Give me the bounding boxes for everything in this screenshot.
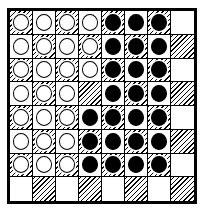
board-square-r4c5[interactable] <box>102 82 125 106</box>
board-square-r6c4[interactable] <box>79 130 102 154</box>
board-square-r6c7[interactable] <box>148 130 171 154</box>
board-square-r1c3[interactable] <box>56 11 79 35</box>
board-square-r3c6[interactable] <box>125 59 148 83</box>
board-square-r5c6[interactable] <box>125 106 148 130</box>
board-square-r6c3[interactable] <box>56 130 79 154</box>
white-piece[interactable] <box>59 156 75 173</box>
black-piece[interactable] <box>151 85 167 102</box>
board-square-r5c8[interactable] <box>171 106 194 130</box>
board-square-r6c6[interactable] <box>125 130 148 154</box>
board-square-r2c7[interactable] <box>148 35 171 59</box>
white-piece[interactable] <box>59 61 75 78</box>
black-piece[interactable] <box>128 14 144 31</box>
board-square-r5c1[interactable] <box>10 106 33 130</box>
black-piece[interactable] <box>82 156 98 173</box>
black-piece[interactable] <box>128 156 144 173</box>
board-square-r2c3[interactable] <box>56 35 79 59</box>
board-square-r2c5[interactable] <box>102 35 125 59</box>
black-piece[interactable] <box>151 133 167 150</box>
white-piece[interactable] <box>13 61 29 78</box>
white-piece[interactable] <box>82 14 98 31</box>
board-square-r8c8[interactable] <box>171 177 194 201</box>
white-piece[interactable] <box>59 133 75 150</box>
black-piece[interactable] <box>128 61 144 78</box>
board-square-r8c7[interactable] <box>148 177 171 201</box>
black-piece[interactable] <box>105 109 121 126</box>
white-piece[interactable] <box>13 85 29 102</box>
board-square-r8c5[interactable] <box>102 177 125 201</box>
white-piece[interactable] <box>36 109 52 126</box>
board-square-r4c1[interactable] <box>10 82 33 106</box>
board-square-r7c3[interactable] <box>56 154 79 178</box>
board-square-r6c5[interactable] <box>102 130 125 154</box>
board-square-r1c6[interactable] <box>125 11 148 35</box>
black-piece[interactable] <box>128 109 144 126</box>
board-square-r2c2[interactable] <box>33 35 56 59</box>
white-piece[interactable] <box>82 38 98 55</box>
white-piece[interactable] <box>36 38 52 55</box>
white-piece[interactable] <box>59 14 75 31</box>
black-piece[interactable] <box>105 38 121 55</box>
board-square-r1c8[interactable] <box>171 11 194 35</box>
black-piece[interactable] <box>151 38 167 55</box>
board-square-r3c1[interactable] <box>10 59 33 83</box>
white-piece[interactable] <box>13 109 29 126</box>
white-piece[interactable] <box>36 61 52 78</box>
white-piece[interactable] <box>59 38 75 55</box>
white-piece[interactable] <box>13 133 29 150</box>
board-square-r3c4[interactable] <box>79 59 102 83</box>
black-piece[interactable] <box>105 14 121 31</box>
board-square-r7c5[interactable] <box>102 154 125 178</box>
black-piece[interactable] <box>105 61 121 78</box>
board-square-r8c1[interactable] <box>10 177 33 201</box>
board-square-r3c2[interactable] <box>33 59 56 83</box>
board-square-r1c7[interactable] <box>148 11 171 35</box>
black-piece[interactable] <box>82 133 98 150</box>
board-square-r7c7[interactable] <box>148 154 171 178</box>
white-piece[interactable] <box>82 61 98 78</box>
white-piece[interactable] <box>36 85 52 102</box>
black-piece[interactable] <box>128 85 144 102</box>
board-square-r1c5[interactable] <box>102 11 125 35</box>
black-piece[interactable] <box>128 133 144 150</box>
white-piece[interactable] <box>36 14 52 31</box>
board-square-r6c2[interactable] <box>33 130 56 154</box>
board-square-r5c5[interactable] <box>102 106 125 130</box>
board-square-r2c4[interactable] <box>79 35 102 59</box>
board-square-r4c4[interactable] <box>79 82 102 106</box>
board-square-r4c7[interactable] <box>148 82 171 106</box>
board-square-r8c3[interactable] <box>56 177 79 201</box>
board-square-r7c2[interactable] <box>33 154 56 178</box>
board-square-r8c2[interactable] <box>33 177 56 201</box>
white-piece[interactable] <box>13 14 29 31</box>
checkers-board[interactable] <box>10 11 194 201</box>
white-piece[interactable] <box>13 156 29 173</box>
board-square-r2c1[interactable] <box>10 35 33 59</box>
board-square-r2c6[interactable] <box>125 35 148 59</box>
board-square-r5c4[interactable] <box>79 106 102 130</box>
board-square-r7c8[interactable] <box>171 154 194 178</box>
board-square-r3c7[interactable] <box>148 59 171 83</box>
black-piece[interactable] <box>105 156 121 173</box>
black-piece[interactable] <box>105 133 121 150</box>
board-square-r4c3[interactable] <box>56 82 79 106</box>
black-piece[interactable] <box>151 61 167 78</box>
board-square-r8c6[interactable] <box>125 177 148 201</box>
board-square-r1c4[interactable] <box>79 11 102 35</box>
white-piece[interactable] <box>59 109 75 126</box>
board-square-r6c8[interactable] <box>171 130 194 154</box>
black-piece[interactable] <box>82 109 98 126</box>
black-piece[interactable] <box>128 38 144 55</box>
white-piece[interactable] <box>36 156 52 173</box>
board-square-r8c4[interactable] <box>79 177 102 201</box>
board-square-r3c3[interactable] <box>56 59 79 83</box>
board-square-r7c1[interactable] <box>10 154 33 178</box>
board-square-r1c1[interactable] <box>10 11 33 35</box>
white-piece[interactable] <box>36 133 52 150</box>
board-square-r3c8[interactable] <box>171 59 194 83</box>
white-piece[interactable] <box>59 85 75 102</box>
black-piece[interactable] <box>151 14 167 31</box>
board-square-r7c4[interactable] <box>79 154 102 178</box>
black-piece[interactable] <box>151 109 167 126</box>
board-square-r1c2[interactable] <box>33 11 56 35</box>
